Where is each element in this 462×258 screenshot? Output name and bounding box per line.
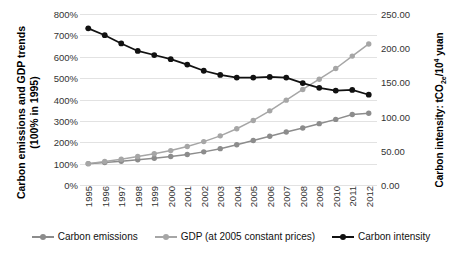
y-axis-left-tick-label: 400% (36, 94, 78, 105)
legend-dot (163, 234, 169, 240)
x-axis-tick-label: 2005 (248, 186, 259, 207)
x-axis-tick-label: 2009 (314, 186, 325, 207)
data-point-marker (333, 117, 338, 122)
data-point-marker (118, 41, 124, 47)
data-point-marker (201, 68, 207, 74)
data-point-marker (316, 85, 322, 91)
x-axis-tick-label: 2006 (265, 186, 276, 207)
data-point-marker (251, 118, 256, 123)
y-axis-left-tick-label: 300% (36, 115, 78, 126)
y-axis-right-tick-label: 50.00 (381, 145, 425, 156)
y-right-title-mid: /10 (434, 62, 445, 76)
data-point-marker (234, 142, 239, 147)
data-point-marker (119, 156, 124, 161)
data-point-marker (168, 56, 174, 62)
data-point-marker (251, 138, 256, 143)
y-axis-left-ticks: 800%700%600%500%400%300%200%100%0% (30, 0, 78, 258)
x-axis-tick-label: 2000 (166, 186, 177, 207)
legend-label: GDP (at 2005 constant prices) (181, 231, 315, 242)
data-point-marker (283, 75, 289, 81)
x-axis-tick-label: 2001 (182, 186, 193, 207)
data-point-marker (366, 92, 372, 98)
chart-container: Carbon emissions and GDP trends (100% in… (0, 0, 462, 258)
data-point-marker (366, 110, 371, 115)
data-point-marker (201, 149, 206, 154)
y-axis-right-tick-label: 250.00 (381, 9, 425, 20)
data-point-marker (234, 75, 240, 81)
data-point-marker (317, 76, 322, 81)
data-point-marker (217, 72, 223, 78)
series-line (88, 28, 369, 94)
data-point-marker (102, 32, 108, 38)
x-axis-tick-label: 2007 (281, 186, 292, 207)
y-right-title-pre: Carbon intensity: tCO (434, 84, 445, 187)
data-point-marker (135, 48, 141, 54)
data-point-marker (350, 53, 355, 58)
data-point-marker (234, 126, 239, 131)
data-point-marker (218, 146, 223, 151)
data-point-marker (267, 108, 272, 113)
y-axis-right-tick-label: 100.00 (381, 111, 425, 122)
x-axis-tick-label: 2012 (364, 186, 375, 207)
data-point-marker (267, 74, 273, 80)
plot-area (80, 14, 377, 185)
x-axis-tick-label: 2008 (298, 186, 309, 207)
y-right-title-sup: 4 (433, 59, 440, 63)
series-svg (80, 14, 377, 185)
data-point-marker (333, 66, 338, 71)
y-axis-right-tick-label: 0.00 (381, 180, 425, 191)
data-point-marker (152, 151, 157, 156)
x-axis-tick-label: 1999 (149, 186, 160, 207)
data-point-marker (168, 154, 173, 159)
legend-dot (340, 234, 346, 240)
data-point-marker (201, 139, 206, 144)
x-axis-tick-label: 1995 (83, 186, 94, 207)
data-point-marker (333, 88, 339, 94)
x-axis-tick-label: 2010 (331, 186, 342, 207)
data-point-marker (349, 87, 355, 93)
data-point-marker (185, 152, 190, 157)
legend-dot (40, 234, 46, 240)
x-axis-ticks: 1995199619971998199920002001200220032004… (80, 186, 377, 228)
y-axis-left-tick-label: 500% (36, 73, 78, 84)
y-axis-right-tick-label: 200.00 (381, 43, 425, 54)
y-axis-right-title: Carbon intensity: tCO2e/104 yuan (431, 21, 451, 199)
data-point-marker (85, 25, 91, 31)
y-axis-left-tick-label: 800% (36, 9, 78, 20)
y-axis-left-tick-label: 0% (36, 180, 78, 191)
legend-item[interactable]: Carbon intensity (332, 231, 430, 242)
data-point-marker (284, 97, 289, 102)
x-axis-tick-label: 2004 (232, 186, 243, 207)
x-axis-tick-label: 1998 (133, 186, 144, 207)
data-point-marker (300, 80, 306, 86)
x-axis-tick-label: 2011 (347, 186, 358, 206)
legend-label: Carbon intensity (358, 231, 430, 242)
series-carbon-intensity (85, 25, 371, 97)
data-point-marker (168, 148, 173, 153)
data-point-marker (350, 112, 355, 117)
legend-item[interactable]: GDP (at 2005 constant prices) (155, 231, 315, 242)
x-axis-tick-label: 2003 (215, 186, 226, 207)
y-right-title-sub: 2e (440, 76, 447, 84)
data-point-marker (300, 125, 305, 130)
x-axis-tick-label: 2002 (199, 186, 210, 207)
y-axis-left-tick-label: 600% (36, 51, 78, 62)
data-point-marker (317, 121, 322, 126)
chart-legend: Carbon emissionsGDP (at 2005 constant pr… (0, 231, 462, 242)
data-point-marker (102, 159, 107, 164)
legend-marker-icon (332, 232, 354, 242)
legend-label: Carbon emissions (58, 231, 138, 242)
data-point-marker (300, 87, 305, 92)
y-axis-left-tick-label: 200% (36, 137, 78, 148)
data-point-marker (366, 41, 371, 46)
data-point-marker (218, 133, 223, 138)
series-gdp-at-2005-constant-prices (86, 41, 372, 166)
x-axis-tick-label: 1997 (116, 186, 127, 207)
data-point-marker (250, 75, 256, 81)
data-point-marker (284, 129, 289, 134)
legend-marker-icon (32, 232, 54, 242)
y-axis-right-tick-label: 150.00 (381, 77, 425, 88)
data-point-marker (267, 134, 272, 139)
data-point-marker (135, 154, 140, 159)
legend-item[interactable]: Carbon emissions (32, 231, 138, 242)
